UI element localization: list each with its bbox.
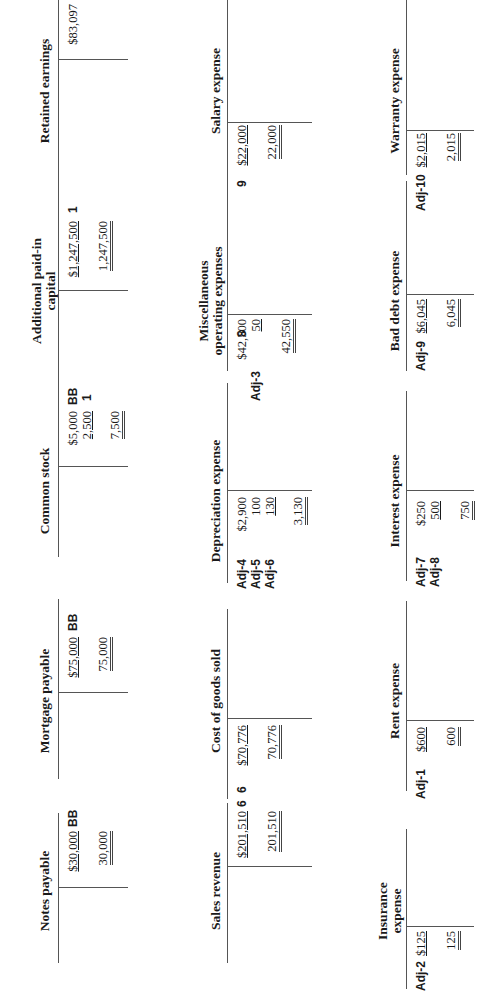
account-title-line-1: Insurance — [376, 811, 390, 1001]
t-account-divider — [227, 866, 312, 867]
t-account-top-line — [227, 0, 228, 181]
t-account-divider — [58, 887, 128, 888]
debit-amount: $2,015 — [414, 133, 428, 175]
debit-amount: $250 — [414, 501, 428, 545]
credit-amount: $201,510 — [235, 811, 249, 863]
credit-amount: 2,500 — [80, 411, 94, 463]
credit-amount: $75,000 — [66, 637, 80, 689]
t-account-divider — [58, 59, 128, 60]
t-account-top-line — [58, 599, 59, 779]
t-account-top-line — [58, 0, 59, 181]
t-account-divider — [227, 314, 312, 315]
t-account-top-line — [227, 803, 228, 963]
debit-amount: $600 — [414, 727, 428, 765]
debit-total: 70,776 — [265, 725, 282, 759]
t-account-divider — [406, 720, 474, 721]
debit-total: 22,000 — [265, 125, 282, 159]
debit-amount: $22,000 — [235, 125, 249, 177]
credit-ref: BB — [66, 614, 80, 631]
debit-amount: $2,900 — [235, 497, 249, 549]
credit-total: 30,000 — [96, 831, 113, 865]
account-title: Bad debt expense — [388, 201, 402, 401]
t-account-depreciation-expense: Depreciation expense Adj-4 $2,900 Adj-5 … — [167, 401, 334, 601]
debit-ref: Adj-5 — [249, 559, 263, 589]
t-account-top-line — [406, 0, 407, 175]
debit-total: 600 — [444, 727, 461, 746]
credit-ref: 1 — [80, 394, 94, 401]
t-account-rent-expense: Rent expense Adj-1 $600 600 — [334, 601, 501, 801]
account-title: Depreciation expense — [209, 401, 223, 601]
t-account-cost-of-goods-sold: Cost of goods sold 6 $70,776 70,776 — [167, 601, 334, 801]
account-title: Sales revenue — [209, 791, 223, 991]
t-account-divider — [406, 490, 474, 491]
credit-amount: $30,000 — [66, 831, 80, 883]
credit-amount: $5,000 — [66, 411, 80, 463]
credit-total: 201,510 — [265, 811, 282, 852]
debit-ref: 6 — [235, 786, 249, 793]
debit-ref: Adj-3 — [249, 371, 263, 401]
t-account-divider — [406, 294, 474, 295]
debit-ref: Adj-8 — [428, 557, 442, 587]
account-title-line-1: Miscellaneous — [197, 201, 211, 401]
account-title-line-2: expense — [390, 811, 404, 1001]
t-account-top-line — [406, 181, 407, 371]
t-account-divider — [58, 692, 128, 693]
debit-amount: 500 — [428, 501, 442, 545]
debit-total: 3,130 — [291, 497, 308, 525]
t-account-top-line — [58, 181, 59, 381]
debit-ref: 9 — [235, 180, 249, 187]
debit-amount: 100 — [249, 497, 263, 549]
debit-amount: $70,776 — [235, 725, 249, 777]
t-account-insurance-expense: Insurance expense Adj-2 $125 125 — [334, 791, 501, 991]
credit-amount: $1,247,500 — [66, 221, 80, 287]
debit-ref: Adj-10 — [414, 174, 428, 211]
debit-ref: Adj-4 — [235, 559, 249, 589]
t-account-divider — [406, 130, 474, 131]
debit-total: 42,550 — [279, 319, 296, 353]
t-account-retained-earnings: Retained earnings $83,097 BB — [0, 0, 167, 191]
account-title-line-1: Additional paid-in — [30, 191, 44, 391]
t-account-divider — [406, 926, 474, 927]
debit-amount: $6,045 — [414, 299, 428, 341]
t-account-interest-expense: Interest expense Adj-7 $250 Adj-8 500 75… — [334, 401, 501, 601]
account-title-line-2: capital — [44, 191, 58, 391]
t-account-divider — [227, 718, 312, 719]
account-title: Interest expense — [388, 401, 402, 601]
debit-total: 2,015 — [444, 133, 461, 161]
credit-ref: 6 — [235, 800, 249, 807]
debit-ref: Adj-9 — [414, 341, 428, 371]
debit-amount: 130 — [263, 497, 277, 549]
t-account-sales-revenue: Sales revenue $201,510 6 201,510 — [167, 791, 334, 991]
account-title: Additional paid-in capital — [30, 191, 58, 391]
t-account-mortgage-payable: Mortgage payable $75,000 BB 75,000 — [0, 601, 167, 801]
t-account-additional-paid-in-capital: Additional paid-in capital $1,247,500 1 … — [0, 191, 167, 391]
t-accounts-page: Notes payable $30,000 BB 30,000 Mortgage… — [0, 0, 501, 1001]
t-account-top-line — [227, 609, 228, 799]
t-account-row-income-2: Insurance expense Adj-2 $125 125 Rent ex… — [334, 0, 501, 1001]
t-account-warranty-expense: Warranty expense Adj-10 $2,015 2,015 — [334, 1, 501, 201]
account-title-line-2: operating expenses — [211, 201, 225, 401]
debit-amount: $125 — [414, 931, 428, 969]
t-account-top-line — [406, 601, 407, 791]
credit-total: 1,247,500 — [96, 221, 113, 271]
t-account-top-line — [406, 391, 407, 581]
t-account-divider — [227, 490, 312, 491]
t-account-top-line — [58, 813, 59, 963]
t-account-top-line — [227, 181, 228, 371]
debit-ref: Adj-6 — [263, 559, 277, 589]
account-title: Common stock — [38, 391, 52, 591]
credit-ref: 1 — [66, 206, 80, 213]
t-account-misc-operating-expenses: Miscellaneous operating expenses 8 $42,5… — [167, 201, 334, 401]
t-account-divider — [58, 466, 128, 467]
t-account-row-income-1: Sales revenue $201,510 6 201,510 Cost of… — [167, 0, 334, 1001]
debit-amount: 50 — [249, 319, 263, 371]
t-account-divider — [58, 290, 128, 291]
debit-ref: Adj-1 — [414, 769, 428, 799]
t-account-top-line — [227, 383, 228, 583]
t-account-divider — [227, 122, 312, 123]
account-title: Retained earnings — [38, 0, 52, 191]
debit-ref: Adj-7 — [414, 557, 428, 587]
account-title: Notes payable — [38, 791, 52, 991]
debit-total: 750 — [458, 501, 475, 520]
debit-amount: $42,500 — [235, 319, 249, 371]
